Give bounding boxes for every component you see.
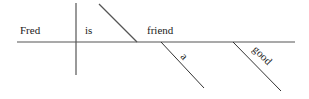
modifier-line-a xyxy=(161,42,204,88)
word-predicate-nominative: friend xyxy=(147,24,174,36)
sentence-diagram: Fred is friend a good xyxy=(0,0,309,99)
predicate-nominative-slash xyxy=(99,4,137,42)
word-verb: is xyxy=(85,24,92,36)
word-subject: Fred xyxy=(20,24,41,36)
word-modifier-a: a xyxy=(179,50,191,62)
